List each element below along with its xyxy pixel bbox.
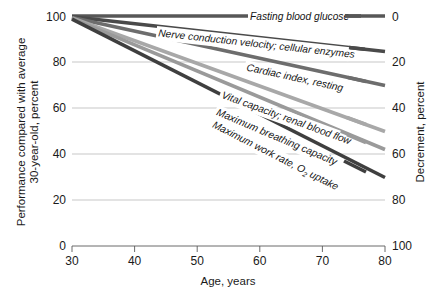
x-tick-label-60: 60 bbox=[253, 254, 267, 268]
y-axis-right-ticklabels: 0 20 40 60 80 100 bbox=[392, 10, 412, 253]
x-tick-label-70: 70 bbox=[316, 254, 330, 268]
series-label-text-fasting-blood-glucose: Fasting blood glucose bbox=[250, 11, 349, 22]
y2-tick-label-60: 60 bbox=[392, 147, 406, 161]
x-axis-title: Age, years bbox=[201, 275, 256, 287]
y2-tick-label-0: 0 bbox=[392, 10, 399, 24]
series-leader-cardiac-index-resting bbox=[348, 78, 366, 82]
y2-tick-label-20: 20 bbox=[392, 55, 406, 69]
x-axis-ticklabels: 30 40 50 60 70 80 bbox=[65, 254, 392, 268]
y-tick-label-40: 40 bbox=[53, 147, 67, 161]
series-leader-nerve-conduction-velocity bbox=[349, 48, 365, 50]
aging-performance-line-chart: Fasting blood glucose Nerve conduction v… bbox=[0, 0, 435, 292]
y-tick-label-80: 80 bbox=[53, 55, 67, 69]
x-tick-label-40: 40 bbox=[128, 254, 142, 268]
x-tickmarks bbox=[72, 246, 385, 252]
y2-tick-label-100: 100 bbox=[392, 239, 412, 253]
y-axis-right-title: Decrement, percent bbox=[414, 81, 426, 183]
y2-tick-label-80: 80 bbox=[392, 193, 406, 207]
y2-tick-label-40: 40 bbox=[392, 101, 406, 115]
y-tick-label-20: 20 bbox=[53, 193, 67, 207]
y-axis-left-ticklabels: 100 80 60 40 20 0 bbox=[46, 10, 66, 253]
y-tick-label-0: 0 bbox=[59, 239, 66, 253]
y-tick-label-100: 100 bbox=[46, 10, 66, 24]
series-leader-vital-capacity-renal-blood-flow bbox=[347, 118, 366, 125]
y-axis-title-line2: 30-year-old, percent bbox=[28, 80, 40, 184]
x-tick-label-50: 50 bbox=[191, 254, 205, 268]
y-axis-title-line1: Performance compared with average bbox=[15, 38, 27, 227]
x-tick-label-30: 30 bbox=[65, 254, 79, 268]
x-tick-label-80: 80 bbox=[378, 254, 392, 268]
y-tick-label-60: 60 bbox=[53, 101, 67, 115]
series-label-fasting-blood-glucose: Fasting blood glucose bbox=[248, 9, 361, 23]
chart-svg: Fasting blood glucose Nerve conduction v… bbox=[0, 0, 435, 292]
